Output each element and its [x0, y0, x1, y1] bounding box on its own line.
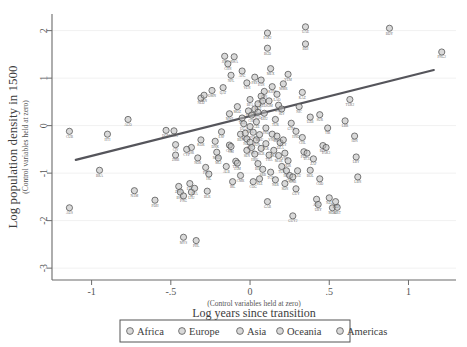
data-point-label: GAB — [264, 205, 272, 209]
y-tick-label: -2 — [38, 216, 49, 224]
data-point-marker — [209, 87, 215, 93]
data-point-label: IND — [263, 131, 270, 135]
legend-label-europe[interactable]: Europe — [189, 326, 220, 337]
data-point-label: TGO — [254, 116, 262, 120]
legend-marker-asia[interactable] — [237, 328, 244, 335]
data-point-label: MWI — [226, 117, 234, 121]
data-point-marker — [272, 177, 278, 183]
data-point-label: MOZ — [234, 110, 242, 114]
data-point-label: CHN — [224, 67, 232, 71]
data-point-label: NZ2 — [332, 205, 339, 209]
data-point-marker — [244, 80, 250, 86]
data-point-label: MYS — [180, 241, 187, 245]
legend-marker-oceania[interactable] — [277, 328, 284, 335]
x-tick-label: -1 — [87, 286, 95, 297]
legend-marker-europe[interactable] — [179, 328, 186, 335]
data-point-marker — [268, 169, 274, 175]
data-point-label: LAO — [273, 98, 281, 102]
data-point-marker — [237, 172, 243, 178]
data-point-label: CZE — [253, 125, 259, 129]
data-point-label: PNG — [180, 199, 187, 203]
data-point-label: BGR — [258, 152, 266, 156]
data-point-label: PAN — [258, 83, 265, 87]
data-point-label: TIB — [325, 131, 331, 135]
data-point-marker — [250, 179, 256, 185]
data-point-label: ROU — [256, 138, 264, 142]
chart-svg: 210-1-2-3-1-.50.51 CUBAUSBRAHTIAGONAMPDH… — [0, 0, 467, 347]
x-axis-title: Log years since transition — [192, 306, 316, 320]
data-point-marker — [261, 110, 267, 116]
data-point-label: THA — [266, 158, 274, 162]
data-point-marker — [206, 171, 212, 177]
data-point-label: PDH — [152, 204, 159, 208]
x-tick-label: .5 — [326, 286, 334, 297]
legend-marker-africa[interactable] — [127, 328, 134, 335]
data-point-marker — [231, 54, 237, 60]
y-tick-label: -1 — [38, 169, 49, 177]
data-point-label: LBY — [353, 160, 360, 164]
data-point-label: HTI — [105, 138, 112, 142]
data-point-marker — [104, 131, 110, 137]
data-point-marker — [66, 128, 72, 134]
legend-label-africa[interactable]: Africa — [137, 326, 164, 337]
data-point-label: LTU — [188, 196, 195, 200]
data-point-label: ECU — [304, 157, 311, 161]
x-tick-label: 1 — [406, 286, 411, 297]
data-point-marker — [255, 161, 261, 167]
data-point-label: KOR — [197, 143, 205, 147]
data-point-marker — [326, 195, 332, 201]
data-point-label: KAZ — [299, 96, 306, 100]
data-point-marker — [272, 116, 278, 122]
data-point-label: BRA — [96, 174, 104, 178]
data-point-marker — [315, 201, 321, 207]
data-point-marker — [288, 120, 294, 126]
data-point-label: GUY2 — [288, 219, 297, 223]
data-point-label: NER — [272, 183, 280, 187]
data-point-label: UAE — [302, 30, 309, 34]
data-point-marker — [299, 134, 305, 140]
data-point-label: NAM — [130, 194, 138, 198]
data-point-label: BOL — [307, 174, 314, 178]
data-point-label: LBN — [354, 180, 361, 184]
data-point-marker — [66, 205, 72, 211]
data-point-label: ZMB — [172, 158, 180, 162]
data-point-label: MEX — [267, 72, 275, 76]
data-point-label: CUB — [66, 135, 74, 139]
legend-label-americas[interactable]: Americas — [347, 326, 387, 337]
data-point-marker — [290, 213, 296, 219]
data-point-marker — [282, 150, 288, 156]
data-points: CUBAUSBRAHTIAGONAMPDHDOMGHACIVZMBZWEBWAP… — [66, 24, 446, 248]
data-point-label: JOR — [285, 164, 292, 168]
data-point-marker — [355, 174, 361, 180]
data-point-marker — [131, 188, 137, 194]
data-point-marker — [307, 114, 313, 120]
data-point-marker — [269, 84, 275, 90]
data-point-label: VEN — [243, 86, 251, 90]
data-point-marker — [264, 30, 270, 36]
data-point-marker — [323, 144, 329, 150]
legend-label-asia[interactable]: Asia — [247, 326, 267, 337]
data-point-marker — [285, 158, 291, 164]
data-point-marker — [293, 128, 299, 134]
data-point-label: PHL — [193, 244, 199, 248]
legend-label-oceania[interactable]: Oceania — [287, 326, 322, 337]
data-point-marker — [222, 53, 228, 59]
data-point-label: MMR — [279, 87, 288, 91]
data-point-marker — [256, 132, 262, 138]
data-point-marker — [218, 129, 224, 135]
data-point-label: BDY — [386, 32, 394, 36]
data-point-marker — [226, 111, 232, 117]
data-point-label: DNK — [212, 145, 220, 149]
data-point-marker — [198, 137, 204, 143]
data-point-marker — [234, 104, 240, 110]
y-tick-label: 0 — [38, 123, 49, 128]
legend-marker-americas[interactable] — [337, 328, 344, 335]
data-point-marker — [96, 167, 102, 173]
data-point-marker — [172, 142, 178, 148]
data-point-label: NIC — [296, 110, 303, 114]
data-point-label: AFG — [239, 74, 246, 78]
data-point-marker — [204, 188, 210, 194]
data-point-marker — [228, 72, 234, 78]
data-point-marker — [310, 156, 316, 162]
data-point-label: COG — [250, 185, 258, 189]
